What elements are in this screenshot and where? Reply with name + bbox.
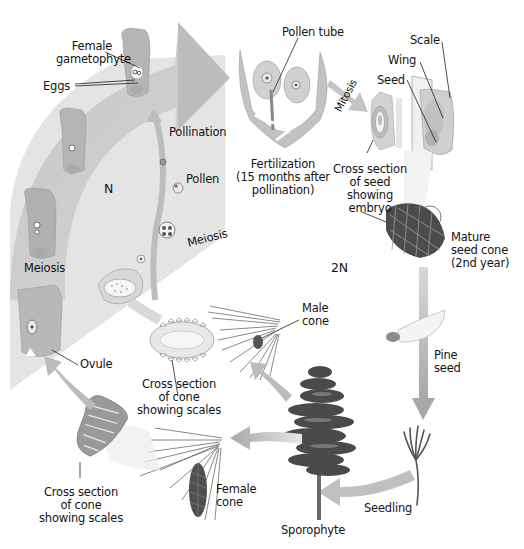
pine-seed-illustration — [386, 310, 445, 342]
fertilization-label: Fertilization (15 months after pollinati… — [228, 158, 338, 197]
pollination-label: Pollination — [169, 126, 226, 139]
seed-label: Seed — [377, 74, 405, 87]
male-cone-branch — [208, 306, 280, 380]
haploid-label: N — [104, 182, 113, 195]
seedling-illustration — [404, 426, 430, 505]
female-cone-label: Female cone — [216, 483, 256, 509]
meiosis-female-label: Meiosis — [24, 262, 65, 275]
sporophyte-label: Sporophyte — [281, 524, 345, 537]
seed-cross-section-illustration — [371, 92, 402, 150]
seedling-label: Seedling — [364, 502, 412, 515]
arrow-to-male-cone — [250, 362, 292, 402]
ovule-label: Ovule — [80, 358, 112, 371]
wing-label: Wing — [388, 54, 416, 67]
male-cone-cross-section-label: Cross section of cone showing scales — [134, 378, 224, 417]
pollen-tube-label: Pollen tube — [282, 26, 344, 39]
pine-seed-label: Pine seed — [434, 349, 461, 375]
female-cone — [189, 463, 207, 517]
diploid-label: 2N — [331, 261, 348, 274]
female-cone-cross-section-label: Cross section of cone showing scales — [36, 486, 126, 525]
pine-life-cycle-diagram: N 2N Female gametophyte Eggs Pollination… — [0, 0, 524, 549]
female-gametophyte-label: Female gametophyte — [56, 40, 128, 66]
eggs-label: Eggs — [43, 80, 70, 93]
arrow-to-female-cone — [230, 426, 302, 450]
fertilization-illustration — [239, 50, 327, 148]
male-cone-label: Male cone — [302, 302, 329, 328]
ovule-stage-2 — [60, 108, 86, 174]
diagram-artwork — [0, 0, 524, 549]
mature-seed-cone-label: Mature seed cone (2nd year) — [451, 231, 509, 270]
seed-dispersal-arrow — [412, 267, 435, 420]
pollen-label: Pollen — [186, 173, 219, 186]
ovule-illustration — [18, 285, 62, 357]
scale-label: Scale — [410, 34, 440, 47]
seed-cross-section-label: Cross section of seed showing embryo — [330, 163, 410, 215]
male-cone-cross-section — [150, 318, 214, 362]
